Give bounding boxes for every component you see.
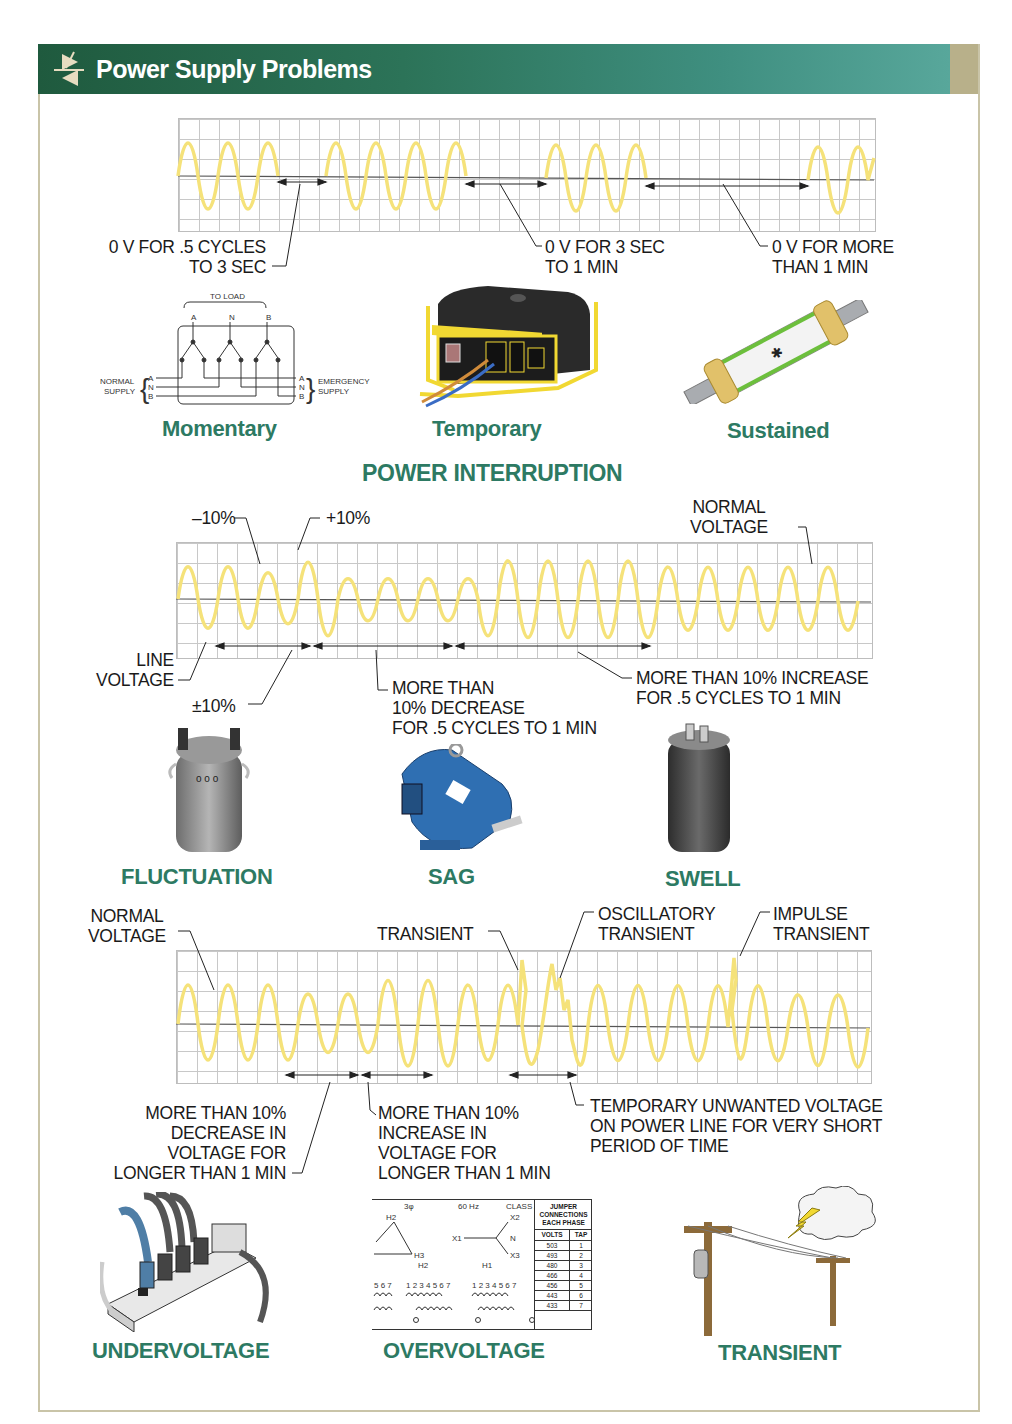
transformer-nameplate: 3φ 60 Hz CLASS AA H2H3 X1X2NX3 H2H1 5 6 … [372, 1199, 592, 1330]
svg-text:X2: X2 [510, 1213, 520, 1222]
col-tap: TAP [570, 1230, 592, 1240]
nameplate-class: CLASS AA [506, 1202, 534, 1211]
tap-cell: 2 [570, 1251, 592, 1260]
volts-cell: 480 [535, 1261, 570, 1270]
svg-text:H3: H3 [414, 1251, 425, 1260]
volts-cell: 493 [535, 1251, 570, 1260]
caption-transient: TRANSIENT [718, 1340, 841, 1366]
nameplate-frequency: 60 Hz [458, 1202, 479, 1211]
svg-text:1 2 3 4 5 6 7: 1 2 3 4 5 6 7 [472, 1281, 517, 1290]
transient-leader-lines [0, 0, 1012, 1200]
jumper-table-row: 4337 [535, 1301, 592, 1311]
jumper-table-row: 4932 [535, 1251, 592, 1261]
nameplate-wiring-diagram: 3φ 60 Hz CLASS AA H2H3 X1X2NX3 H2H1 5 6 … [372, 1200, 534, 1329]
tap-cell: 4 [570, 1271, 592, 1280]
tap-cell: 1 [570, 1241, 592, 1250]
svg-text:5 6 7: 5 6 7 [374, 1281, 392, 1290]
svg-text:H2: H2 [386, 1213, 397, 1222]
power-strip-illustration [100, 1192, 280, 1332]
svg-text:X3: X3 [510, 1251, 520, 1260]
volts-cell: 466 [535, 1271, 570, 1280]
nameplate-phase: 3φ [404, 1202, 414, 1211]
caption-overvoltage: OVERVOLTAGE [383, 1338, 545, 1364]
jumper-table-header: JUMPER CONNECTIONS EACH PHASE [535, 1200, 592, 1230]
annotation-transient-description: TEMPORARY UNWANTED VOLTAGE ON POWER LINE… [590, 1096, 883, 1156]
svg-text:X1: X1 [452, 1234, 462, 1243]
annotation-overvoltage-description: MORE THAN 10% INCREASE IN VOLTAGE FOR LO… [378, 1103, 551, 1183]
volts-cell: 433 [535, 1301, 570, 1310]
jumper-table-row: 4664 [535, 1271, 592, 1281]
volts-cell: 456 [535, 1281, 570, 1290]
svg-text:H1: H1 [482, 1261, 493, 1270]
jumper-table: JUMPER CONNECTIONS EACH PHASE VOLTS TAP … [534, 1200, 592, 1329]
volts-cell: 503 [535, 1241, 570, 1250]
utility-poles-lightning-illustration [680, 1186, 890, 1336]
svg-text:N: N [510, 1234, 516, 1243]
svg-text:H2: H2 [418, 1261, 429, 1270]
jumper-table-row: 4436 [535, 1291, 592, 1301]
jumper-table-row: 4565 [535, 1281, 592, 1291]
tap-cell: 7 [570, 1301, 592, 1310]
tap-cell: 5 [570, 1281, 592, 1290]
volts-cell: 443 [535, 1291, 570, 1300]
col-volts: VOLTS [535, 1230, 570, 1240]
tap-cell: 3 [570, 1261, 592, 1270]
jumper-table-row: 5031 [535, 1241, 592, 1251]
svg-text:1 2 3 4 5 6 7: 1 2 3 4 5 6 7 [406, 1281, 451, 1290]
annotation-undervoltage-description: MORE THAN 10% DECREASE IN VOLTAGE FOR LO… [70, 1103, 286, 1183]
caption-undervoltage: UNDERVOLTAGE [92, 1338, 269, 1364]
tap-cell: 6 [570, 1291, 592, 1300]
jumper-table-row: 4803 [535, 1261, 592, 1271]
